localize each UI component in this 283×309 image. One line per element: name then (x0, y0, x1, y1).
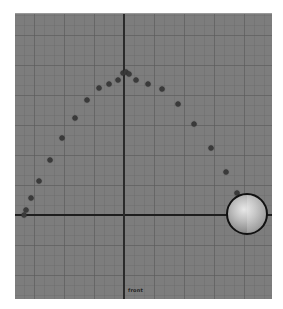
trajectory-point[interactable] (24, 208, 29, 213)
trajectory-point[interactable] (127, 72, 132, 77)
trajectory-point[interactable] (48, 158, 53, 163)
camera-label: front (128, 287, 143, 293)
trajectory-point[interactable] (176, 102, 181, 107)
trajectory-point[interactable] (209, 146, 214, 151)
trajectory-point[interactable] (60, 136, 65, 141)
trajectory-point[interactable] (37, 179, 42, 184)
trajectory-point[interactable] (29, 196, 34, 201)
sphere-object[interactable] (226, 193, 268, 235)
trajectory-point[interactable] (85, 98, 90, 103)
trajectory-point[interactable] (73, 116, 78, 121)
trajectory-point[interactable] (160, 87, 165, 92)
trajectory-point[interactable] (107, 82, 112, 87)
y-axis-line (123, 14, 125, 299)
trajectory-point[interactable] (192, 122, 197, 127)
trajectory-point[interactable] (224, 170, 229, 175)
trajectory-point[interactable] (134, 78, 139, 83)
trajectory-point[interactable] (97, 86, 102, 91)
trajectory-point[interactable] (146, 82, 151, 87)
trajectory-point[interactable] (116, 78, 121, 83)
front-viewport[interactable]: front (15, 13, 272, 299)
trajectory-point[interactable] (22, 213, 27, 218)
